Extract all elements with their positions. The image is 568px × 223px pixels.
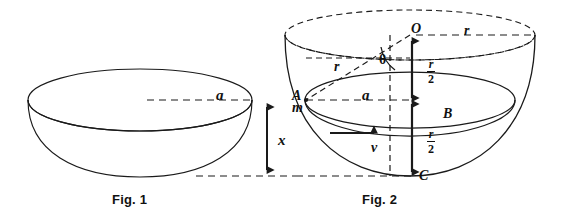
fig2-fraction-top-numerator: r	[427, 58, 435, 70]
physics-figure-pair: a x Fig. 1 A m r θ O r a B v C r 2 r 2 F…	[0, 0, 568, 223]
fig1-caption: Fig. 1	[112, 192, 147, 207]
fig2-outer-bowl	[285, 35, 535, 176]
fig2-label-radius-r-slant: r	[334, 60, 339, 74]
fig2-fraction-half-r-bottom: r 2	[427, 128, 435, 155]
fig2-label-mass-m: m	[292, 101, 303, 115]
fig1-bowl-group	[28, 69, 296, 177]
fig2-fraction-bottom-denominator: 2	[427, 143, 435, 155]
fig2-inner-front-arc	[305, 100, 515, 136]
fig2-radius-r-slant	[306, 35, 410, 100]
fig1-bowl-body	[28, 100, 252, 177]
fig2-fraction-top-denominator: 2	[427, 73, 435, 85]
fig2-fraction-bottom-numerator: r	[427, 128, 435, 140]
fig2-hemisphere-group	[285, 10, 535, 176]
fig2-fraction-half-r-top: r 2	[427, 58, 435, 85]
fig2-label-center-O: O	[411, 22, 421, 36]
fig2-label-point-B: B	[443, 107, 452, 121]
fig2-label-point-C: C	[419, 169, 428, 183]
fig2-label-radius-r-top: r	[464, 24, 469, 38]
fig2-mass-point-A	[304, 98, 308, 102]
fig2-label-radius-a: a	[362, 88, 370, 103]
fig2-label-velocity-v: v	[371, 141, 377, 155]
diagram-canvas	[0, 0, 568, 223]
fig1-label-radius-a: a	[216, 88, 224, 103]
fig2-label-angle-theta: θ	[379, 53, 386, 67]
fig1-inner-rim-arc	[28, 100, 252, 131]
fig1-label-height-x: x	[278, 133, 286, 148]
fig2-construction-arc	[285, 35, 535, 60]
fig2-caption: Fig. 2	[362, 192, 397, 207]
